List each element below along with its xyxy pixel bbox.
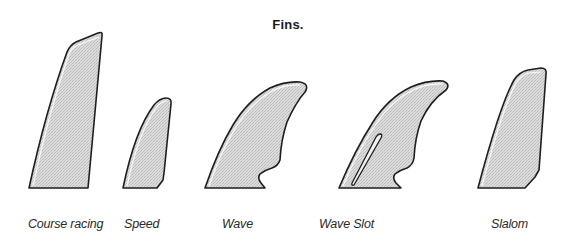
fin-wave-slot-shape: [339, 81, 448, 188]
fin-course-racing-shape: [29, 32, 102, 188]
fin-label-speed: Speed: [124, 217, 159, 231]
fin-label-slalom: Slalom: [491, 217, 528, 231]
fin-slalom-shape: [478, 68, 546, 188]
fin-wave-shape: [205, 82, 307, 188]
fin-speed-shape: [123, 98, 171, 188]
fins-diagram: [0, 0, 568, 244]
fin-label-wave: Wave: [222, 217, 253, 231]
fin-label-course-racing: Course racing: [28, 217, 103, 231]
fin-label-wave-slot: Wave Slot: [319, 217, 374, 231]
